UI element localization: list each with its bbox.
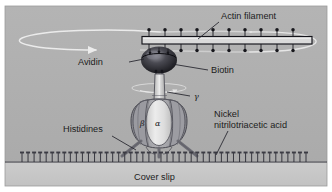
label-avidin: Avidin <box>78 57 103 67</box>
label-gamma: γ <box>194 92 199 101</box>
label-beta: β <box>139 119 145 128</box>
label-nickel-nta-line2: nitrilotriacetic acid <box>214 120 287 130</box>
diagram-canvas: Actin filament Avidin Biotin γ β α Histi… <box>0 0 332 192</box>
label-actin-filament: Actin filament <box>221 11 277 21</box>
label-alpha: α <box>155 119 161 128</box>
figure-root: Actin filament Avidin Biotin γ β α Histi… <box>0 0 332 192</box>
actin-filament-bar <box>142 37 312 45</box>
label-cover-slip: Cover slip <box>134 172 175 182</box>
label-histidines: Histidines <box>63 124 103 134</box>
label-nickel-nta-line1: Nickel <box>214 109 239 119</box>
panel-background <box>5 6 327 186</box>
label-biotin: Biotin <box>211 65 234 75</box>
